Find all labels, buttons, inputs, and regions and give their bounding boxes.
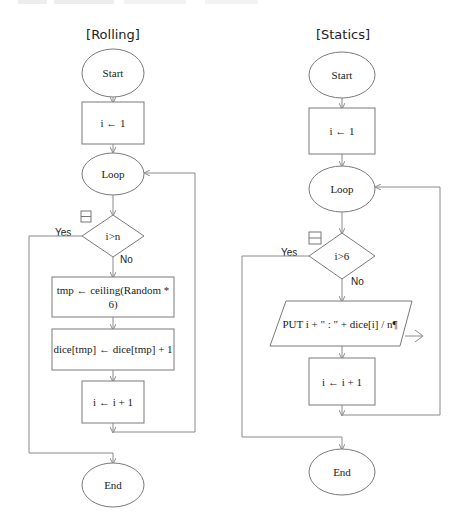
statics-init-label: i ← 1 [329,125,354,137]
rolling-random-step-line1: tmp ← ceiling(Random * [57,284,170,297]
rolling-start-node[interactable]: Start [82,49,144,97]
statics-condition-label: i>6 [335,250,350,262]
rolling-end-node[interactable]: End [82,463,144,507]
collapse-box-icon[interactable] [309,232,321,244]
rolling-loop-label: Loop [101,168,125,180]
statics-no-label: No [351,276,364,287]
rolling-no-label: No [120,254,133,265]
rolling-init-node[interactable]: i ← 1 [82,102,144,144]
statics-end-label: End [333,466,351,478]
statics-output-label: PUT i + " : " + dice[i] / n¶ [282,318,397,330]
rolling-condition-label: i>n [106,230,121,242]
rolling-init-label: i ← 1 [100,117,125,129]
flowchart-canvas: Start i ← 1 Loop i>n Yes No [0,0,466,529]
collapse-box-icon[interactable] [81,211,91,222]
rolling-random-step-line2: 6) [108,298,118,311]
rolling-increment-label: i ← i + 1 [93,396,133,408]
statics-increment-node[interactable]: i ← i + 1 [309,358,375,405]
statics-loop-label: Loop [330,183,354,195]
rolling-end-label: End [104,479,122,491]
statics-end-node[interactable]: End [309,449,375,495]
rolling-dice-step-node[interactable]: dice[tmp] ← dice[tmp] + 1 [52,329,174,370]
statics-start-label: Start [332,69,353,81]
rolling-flowchart: Start i ← 1 Loop i>n Yes No [29,49,195,507]
statics-init-node[interactable]: i ← 1 [309,108,375,154]
statics-loop-node[interactable]: Loop [309,166,375,212]
rolling-loop-node[interactable]: Loop [82,153,144,195]
output-arrow-icon [405,330,423,342]
rolling-random-step-node[interactable]: tmp ← ceiling(Random * 6) [52,277,174,317]
statics-flowchart: Start i ← 1 Loop i>6 Yes No [242,52,440,495]
rolling-dice-step-label: dice[tmp] ← dice[tmp] + 1 [53,343,172,355]
statics-start-node[interactable]: Start [309,52,375,98]
statics-yes-connector [242,256,342,449]
statics-output-node[interactable]: PUT i + " : " + dice[i] / n¶ [270,301,412,346]
rolling-increment-node[interactable]: i ← i + 1 [82,381,144,423]
statics-increment-label: i ← i + 1 [322,376,362,388]
rolling-start-label: Start [103,67,124,79]
